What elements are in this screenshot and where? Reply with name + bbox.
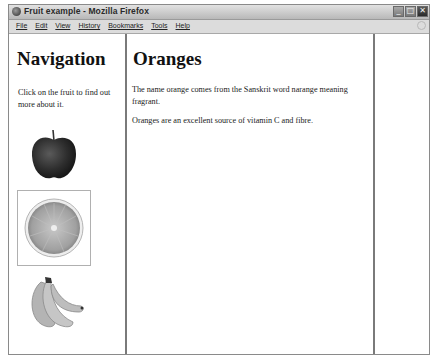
apple-icon	[27, 126, 81, 182]
paragraph-origin: The name orange comes from the Sanskrit …	[132, 84, 362, 108]
banana-icon	[27, 272, 87, 332]
browser-window: Fruit example - Mozilla Firefox _ □ ✕ Fi…	[8, 4, 430, 355]
minimize-icon: _	[394, 5, 403, 17]
navigation-heading: Navigation	[17, 48, 106, 70]
window-title: Fruit example - Mozilla Firefox	[24, 6, 149, 16]
page-content: Navigation Click on the fruit to find ou…	[9, 34, 429, 354]
menu-edit[interactable]: Edit	[31, 22, 51, 29]
maximize-icon: □	[406, 5, 415, 17]
menu-help[interactable]: Help	[172, 22, 194, 29]
paragraph-nutrition: Oranges are an excellent source of vitam…	[132, 115, 362, 127]
firefox-logo-icon	[12, 7, 21, 16]
navigation-instructions: Click on the fruit to find out more abou…	[18, 87, 123, 111]
page-heading: Oranges	[133, 48, 202, 70]
content-frame: Oranges The name orange comes from the S…	[127, 34, 375, 354]
orange-slice-icon	[18, 191, 90, 265]
apple-image-link[interactable]	[27, 126, 81, 182]
title-bar[interactable]: Fruit example - Mozilla Firefox _ □ ✕	[9, 5, 429, 20]
menu-bar: File Edit View History Bookmarks Tools H…	[9, 20, 429, 34]
side-frame	[375, 34, 429, 354]
minimize-button[interactable]: _	[393, 6, 404, 17]
menu-bookmarks[interactable]: Bookmarks	[104, 22, 147, 29]
throbber-icon	[417, 21, 426, 30]
maximize-button[interactable]: □	[405, 6, 416, 17]
orange-image-link[interactable]	[17, 190, 91, 266]
close-button[interactable]: ✕	[417, 6, 428, 17]
navigation-frame: Navigation Click on the fruit to find ou…	[9, 34, 127, 354]
close-icon: ✕	[418, 5, 427, 17]
menu-tools[interactable]: Tools	[147, 22, 171, 29]
menu-view[interactable]: View	[51, 22, 74, 29]
menu-file[interactable]: File	[12, 22, 31, 29]
banana-image-link[interactable]	[27, 272, 87, 332]
window-controls: _ □ ✕	[393, 6, 428, 17]
menu-history[interactable]: History	[74, 22, 104, 29]
